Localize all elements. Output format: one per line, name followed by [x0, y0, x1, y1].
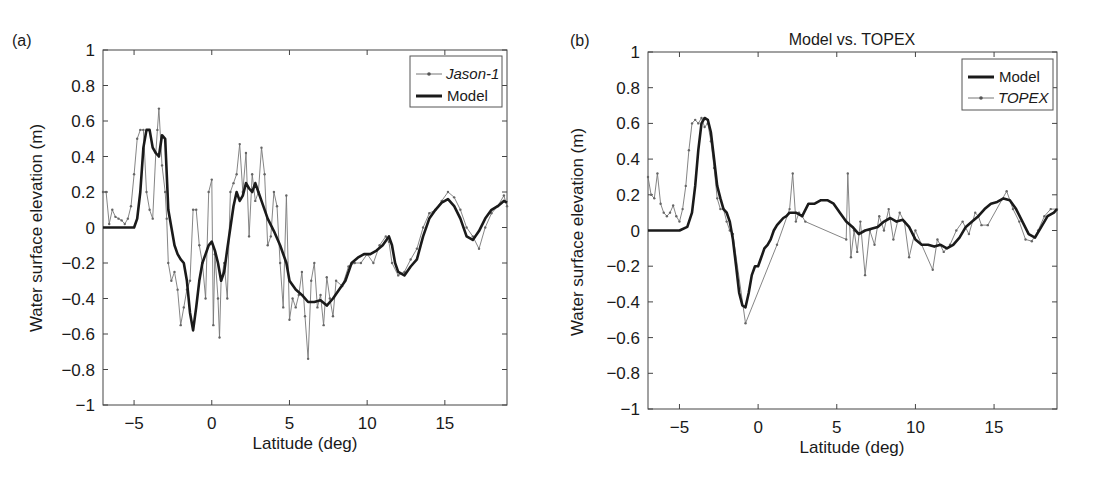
panel-a-x-axis-label: Latitude (deg): [253, 434, 358, 453]
figure: (a) 10.80.60.40.20−0.2−0.4−0.6−0.8−1 −50…: [0, 0, 1111, 489]
panel-a-chart: (a) 10.80.60.40.20−0.2−0.4−0.6−0.8−1 −50…: [12, 32, 508, 453]
panel-b-y-axis-label: Water surface elevation (m): [568, 128, 587, 336]
y-tick-label: 0.2: [71, 183, 95, 202]
x-tick-label: 15: [435, 414, 454, 433]
panel-a-label: (a): [12, 32, 32, 49]
y-tick-label: 0: [631, 222, 640, 241]
legend-topex: TOPEX: [998, 89, 1050, 106]
legend-model: Model: [447, 87, 488, 104]
y-tick-label: 0.8: [616, 79, 640, 98]
legend-model: Model: [999, 68, 1040, 85]
y-tick-label: −0.2: [61, 254, 95, 273]
x-tick-label: −5: [124, 414, 143, 433]
y-tick-label: 0.2: [616, 186, 640, 205]
y-tick-label: 0.4: [71, 148, 95, 167]
panel-a-y-axis-label: Water surface elevation (m): [27, 124, 46, 332]
x-tick-label: −5: [670, 418, 689, 437]
panel-b-label: (b): [570, 32, 590, 49]
y-tick-label: 0: [86, 219, 95, 238]
y-tick-label: −0.2: [606, 257, 640, 276]
marker-dot-icon: [979, 96, 983, 100]
y-tick-label: −0.4: [606, 293, 640, 312]
y-tick-label: −0.8: [606, 364, 640, 383]
y-tick-label: 1: [631, 43, 640, 62]
x-tick-label: 15: [985, 418, 1004, 437]
y-tick-label: 0.6: [71, 112, 95, 131]
y-tick-label: 1: [86, 41, 95, 60]
y-tick-label: −0.8: [61, 361, 95, 380]
marker-dot-icon: [427, 72, 431, 76]
y-tick-label: −0.6: [606, 329, 640, 348]
x-tick-label: 0: [753, 418, 762, 437]
panel-b-legend: Model TOPEX: [962, 59, 1053, 110]
y-tick-label: 0.6: [616, 114, 640, 133]
panel-b-x-axis-label: Latitude (deg): [800, 438, 905, 457]
y-tick-label: −1: [76, 396, 95, 415]
y-tick-label: −1: [621, 400, 640, 419]
legend-jason1: Jason-1: [445, 65, 499, 82]
x-tick-label: 0: [207, 414, 216, 433]
y-tick-label: 0.4: [616, 150, 640, 169]
panel-b-chart: (b) Model vs. TOPEX 10.80.60.40.20−0.2−0…: [568, 31, 1058, 457]
y-tick-label: −0.6: [61, 325, 95, 344]
panel-a-legend: Jason-1 Model: [410, 56, 502, 107]
x-tick-label: 10: [358, 414, 377, 433]
x-tick-label: 10: [906, 418, 925, 437]
x-tick-label: 5: [832, 418, 841, 437]
panel-b-title: Model vs. TOPEX: [789, 31, 916, 48]
y-tick-label: 0.8: [71, 77, 95, 96]
y-tick-label: −0.4: [61, 290, 95, 309]
x-tick-label: 5: [285, 414, 294, 433]
